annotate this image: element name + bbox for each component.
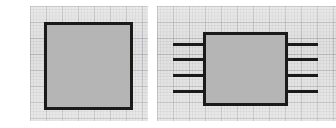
plain-block-caption: Plain rectangular block [0, 0, 1, 1]
total-pin-count: 8 [0, 0, 1, 1]
pinned-block-panel [157, 6, 336, 121]
plain-block-panel [30, 6, 148, 121]
figure-title: Two block-diagram sketches on graph pape… [0, 0, 1, 1]
pinned-block-caption: Rectangular block with four leads per si… [0, 0, 1, 1]
diagram-canvas: Two block-diagram sketches on graph pape… [0, 0, 336, 128]
